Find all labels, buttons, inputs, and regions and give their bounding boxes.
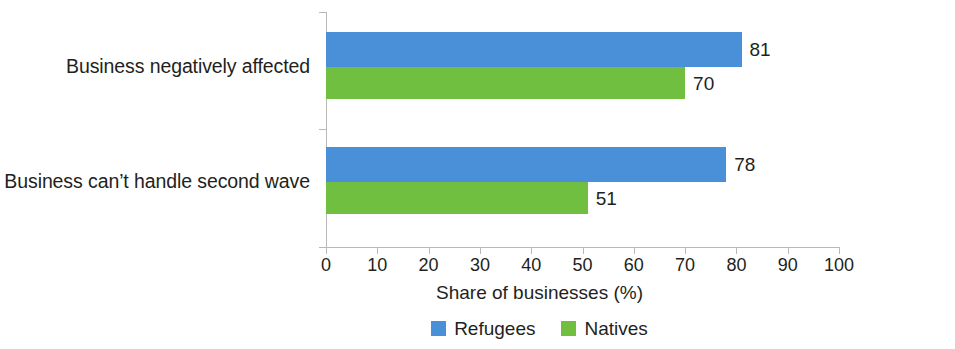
legend-swatch-icon — [561, 321, 576, 336]
x-axis-tick — [788, 247, 789, 254]
x-axis-tick — [736, 247, 737, 254]
x-axis-tick — [326, 247, 327, 254]
x-axis-tick-label: 80 — [726, 256, 746, 274]
x-axis-tick-label: 60 — [624, 256, 644, 274]
x-axis-tick-label: 90 — [778, 256, 798, 274]
legend-item-natives: Natives — [561, 319, 647, 338]
y-axis-tick — [319, 247, 326, 248]
y-axis-tick — [319, 129, 326, 130]
bar-refugees-group1 — [326, 147, 726, 182]
bar-value-natives-group0: 70 — [693, 74, 714, 93]
category-label-0: Business negatively affected — [66, 57, 310, 77]
x-axis-tick-label: 100 — [824, 256, 854, 274]
x-axis-tick — [480, 247, 481, 254]
bar-refugees-group0 — [326, 32, 742, 67]
bar-natives-group1 — [326, 182, 588, 214]
x-axis-tick — [685, 247, 686, 254]
x-axis-tick — [583, 247, 584, 254]
x-axis-tick — [839, 247, 840, 254]
bar-chart: Business negatively affected Business ca… — [0, 0, 955, 349]
bar-value-refugees-group0: 81 — [750, 40, 771, 59]
x-axis-tick-label: 70 — [675, 256, 695, 274]
y-axis-tick — [319, 12, 326, 13]
chart-legend: Refugees Natives — [0, 319, 955, 338]
legend-item-refugees: Refugees — [431, 319, 535, 338]
x-axis-tick-label: 0 — [321, 256, 331, 274]
legend-label-refugees: Refugees — [454, 319, 535, 338]
x-axis-tick-label: 20 — [419, 256, 439, 274]
x-axis-tick-label: 30 — [470, 256, 490, 274]
x-axis-tick-label: 40 — [521, 256, 541, 274]
x-axis-tick — [377, 247, 378, 254]
x-axis-tick — [429, 247, 430, 254]
bar-value-natives-group1: 51 — [596, 189, 617, 208]
x-axis-tick-label: 10 — [367, 256, 387, 274]
x-axis-title: Share of businesses (%) — [0, 283, 955, 302]
legend-label-natives: Natives — [584, 319, 647, 338]
x-axis-tick-label: 50 — [572, 256, 592, 274]
x-axis-tick — [634, 247, 635, 254]
bar-natives-group0 — [326, 67, 685, 99]
legend-swatch-icon — [431, 321, 446, 336]
category-label-1: Business can’t handle second wave — [4, 172, 310, 192]
x-axis-tick — [531, 247, 532, 254]
plot-area: 81 70 78 51 — [326, 12, 839, 248]
bar-value-refugees-group1: 78 — [734, 155, 755, 174]
